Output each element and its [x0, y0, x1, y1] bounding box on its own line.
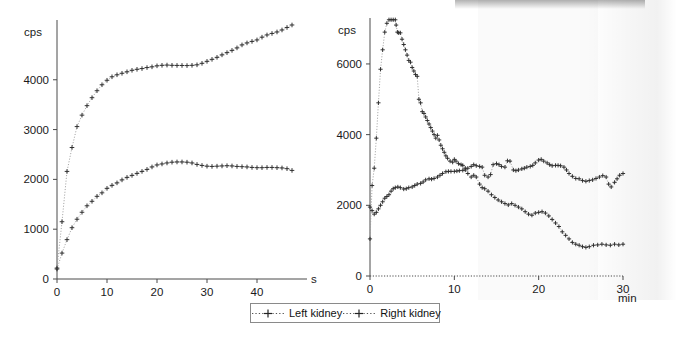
right-x-axis-unit-label: min	[618, 292, 637, 304]
plus-dotted-marker-icon	[342, 308, 376, 319]
data-series-left-kidney	[368, 18, 625, 250]
left-x-axis-unit-label: s	[311, 273, 317, 285]
data-series-left-kidney	[55, 23, 295, 271]
data-series-right-kidney	[55, 160, 295, 272]
series-legend: Left kidney Right kidney	[250, 303, 440, 323]
figure-root: 01000200030004000 010203040 cps s 020004…	[0, 0, 677, 340]
right-y-tick-labels: 0200040006000	[336, 58, 362, 282]
plus-dotted-marker-icon	[251, 308, 285, 319]
legend-item-right-kidney: Right kidney	[342, 307, 441, 319]
legend-label-left-kidney: Left kidney	[289, 307, 342, 319]
axis-tick-label: 2000	[336, 199, 362, 211]
left-x-tick-marks	[57, 279, 257, 283]
axis-tick-label: 4000	[23, 74, 49, 86]
axis-tick-label: 10	[101, 286, 114, 298]
legend-item-left-kidney: Left kidney	[251, 307, 342, 319]
axis-tick-label: 1000	[23, 223, 49, 235]
series-line	[370, 159, 623, 214]
right-x-tick-marks	[370, 276, 623, 280]
left-chart-svg: 01000200030004000 010203040 cps s	[0, 0, 330, 340]
axis-tick-label: 0	[54, 286, 60, 298]
axis-tick-label: 4000	[336, 129, 362, 141]
axis-tick-label: 0	[356, 270, 362, 282]
right-data-series-group	[368, 18, 625, 250]
axis-tick-label: 0	[43, 273, 49, 285]
left-data-series-group	[55, 23, 295, 272]
left-y-axis-unit-label: cps	[24, 26, 42, 38]
series-line	[57, 162, 292, 269]
left-y-tick-labels: 01000200030004000	[23, 74, 49, 285]
right-chart-svg: 0200040006000 0102030 cps min	[330, 0, 677, 340]
chart-panel-left: 01000200030004000 010203040 cps s	[0, 0, 330, 340]
axis-tick-label: 10	[448, 283, 461, 295]
right-x-tick-labels: 0102030	[367, 283, 630, 295]
series-line	[57, 25, 292, 268]
right-y-axis-unit-label: cps	[338, 24, 356, 36]
left-y-tick-marks	[53, 80, 57, 279]
axis-tick-label: 6000	[336, 58, 362, 70]
series-line	[370, 20, 623, 248]
left-x-tick-labels: 010203040	[54, 286, 264, 298]
chart-panel-right: 0200040006000 0102030 cps min	[330, 0, 677, 340]
data-series-right-kidney	[368, 157, 625, 216]
axis-tick-label: 30	[201, 286, 214, 298]
axis-tick-label: 40	[251, 286, 264, 298]
axis-tick-label: 20	[532, 283, 545, 295]
axis-tick-label: 3000	[23, 124, 49, 136]
axis-tick-label: 20	[151, 286, 164, 298]
axis-tick-label: 0	[367, 283, 373, 295]
legend-label-right-kidney: Right kidney	[380, 307, 441, 319]
right-y-tick-marks	[366, 64, 370, 276]
axis-tick-label: 2000	[23, 173, 49, 185]
